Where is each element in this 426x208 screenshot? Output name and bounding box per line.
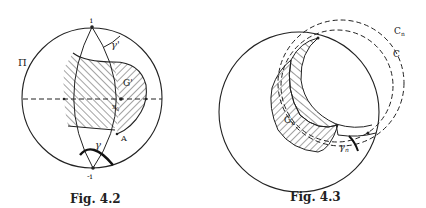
annulus-band bbox=[336, 124, 376, 136]
label-g-prime: G' bbox=[123, 78, 133, 88]
point-left bbox=[63, 98, 66, 101]
region-g-left bbox=[64, 53, 121, 128]
label-gamma-n: γn bbox=[339, 141, 349, 153]
point-top-43 bbox=[317, 37, 320, 40]
point-a bbox=[116, 133, 119, 136]
diagram-canvas: i -i Π γ' G' x0 A γ Fig. 4.2 Cn C Gn γn bbox=[0, 0, 426, 208]
label-i: i bbox=[90, 16, 93, 25]
label-gamma: γ bbox=[95, 139, 101, 150]
point-x0 bbox=[119, 97, 123, 101]
label-cn: Cn bbox=[394, 26, 405, 37]
label-gamma-prime: γ' bbox=[111, 39, 120, 50]
label-a: A bbox=[120, 134, 127, 143]
point-i bbox=[90, 25, 94, 29]
label-minus-i: -i bbox=[87, 172, 93, 181]
point-right-43 bbox=[367, 132, 370, 135]
caption-fig-4-2: Fig. 4.2 bbox=[70, 192, 121, 206]
figure-4-2: i -i Π γ' G' x0 A γ Fig. 4.2 bbox=[18, 16, 162, 206]
point-minus-i bbox=[91, 166, 95, 170]
figure-4-3: Cn C Gn γn Fig. 4.3 bbox=[219, 20, 405, 204]
label-c: C bbox=[393, 49, 400, 59]
caption-fig-4-3: Fig. 4.3 bbox=[290, 190, 341, 204]
label-pi: Π bbox=[18, 57, 27, 68]
point-right bbox=[145, 98, 148, 101]
